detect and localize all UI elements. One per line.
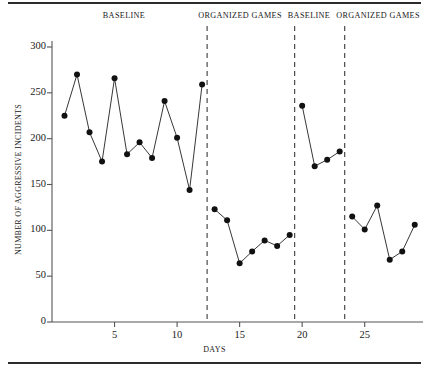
data-point bbox=[312, 163, 318, 169]
y-tick-label: 300 bbox=[12, 40, 46, 51]
data-point bbox=[249, 248, 255, 254]
phase-label-organized-games-1: ORGANIZED GAMES bbox=[196, 10, 284, 21]
data-point bbox=[112, 75, 118, 81]
x-tick-label: 25 bbox=[353, 329, 377, 340]
data-point bbox=[99, 159, 105, 165]
y-axis-tick-labels: 050100150200250300 bbox=[6, 0, 46, 371]
data-point bbox=[262, 237, 268, 243]
x-tick-label: 15 bbox=[228, 329, 252, 340]
data-line-segment-2 bbox=[215, 209, 290, 263]
data-point bbox=[237, 260, 243, 266]
x-tick-label: 10 bbox=[165, 329, 189, 340]
data-point bbox=[387, 257, 393, 263]
data-point bbox=[162, 98, 168, 104]
data-point bbox=[62, 113, 68, 119]
data-point bbox=[212, 206, 218, 212]
x-axis-title: DAYS bbox=[0, 345, 429, 354]
data-point bbox=[412, 222, 418, 228]
data-line-segment-4 bbox=[352, 206, 415, 260]
data-point bbox=[137, 139, 143, 145]
data-point bbox=[399, 248, 405, 254]
data-point bbox=[124, 151, 130, 157]
data-point bbox=[374, 203, 380, 209]
data-point bbox=[274, 243, 280, 249]
figure-container: 050100150200250300 510152025 BASELINE OR… bbox=[0, 0, 429, 371]
x-tick-label: 20 bbox=[290, 329, 314, 340]
data-point bbox=[362, 226, 368, 232]
data-point bbox=[337, 149, 343, 155]
y-axis-title: NUMBER OF AGGRESSIVE INCIDENTS bbox=[14, 80, 23, 280]
phase-label-baseline-1: BASELINE bbox=[56, 10, 192, 21]
data-line-segment-3 bbox=[302, 106, 340, 167]
data-line-segment-1 bbox=[65, 75, 203, 191]
y-tick-label: 0 bbox=[12, 315, 46, 326]
data-point bbox=[174, 135, 180, 141]
data-point bbox=[299, 103, 305, 109]
data-point bbox=[187, 187, 193, 193]
data-point bbox=[87, 129, 93, 135]
data-point bbox=[149, 155, 155, 161]
data-point bbox=[287, 232, 293, 238]
x-tick-label: 5 bbox=[103, 329, 127, 340]
phase-label-baseline-2: BASELINE bbox=[282, 10, 336, 21]
data-point bbox=[349, 214, 355, 220]
data-point bbox=[199, 82, 205, 88]
line-chart-plot bbox=[0, 0, 429, 371]
data-point bbox=[324, 157, 330, 163]
phase-label-organized-games-2: ORGANIZED GAMES bbox=[336, 10, 420, 21]
data-point bbox=[224, 217, 230, 223]
data-point bbox=[74, 72, 80, 78]
